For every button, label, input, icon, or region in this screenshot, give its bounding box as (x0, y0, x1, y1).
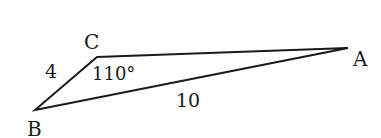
side-label-ab: 10 (176, 89, 200, 111)
side-label-bc: 4 (45, 60, 57, 82)
vertex-label-c: C (84, 30, 99, 54)
triangle-diagram: C A B 4 110° 10 (0, 0, 381, 138)
vertex-label-a: A (352, 47, 368, 71)
angle-label-c: 110° (92, 63, 135, 84)
vertex-label-b: B (27, 117, 42, 138)
